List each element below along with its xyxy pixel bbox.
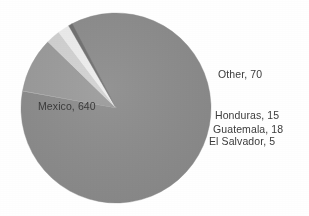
slice-label-el-salvador: El Salvador, 5: [209, 136, 275, 148]
slice-label-honduras: Honduras, 15: [215, 110, 279, 122]
slice-label-guatemala: Guatemala, 18: [213, 124, 283, 136]
slice-label-other: Other, 70: [218, 69, 262, 81]
slice-label-mexico: Mexico, 640: [38, 101, 96, 113]
pie-chart: Mexico, 640 Other, 70 Honduras, 15 Guate…: [0, 0, 309, 216]
